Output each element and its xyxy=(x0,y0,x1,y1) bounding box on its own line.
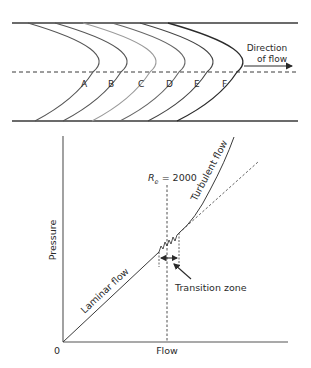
transition-zigzag xyxy=(159,233,179,252)
profile-label-d: D xyxy=(166,79,173,89)
laminar-flow-label: Laminar flow xyxy=(78,265,131,315)
tube-diagram: A B C D E F Direction of flow xyxy=(12,23,298,121)
direction-label-line2: of flow xyxy=(257,54,287,64)
pressure-flow-chart: Pressure Flow 0 Re = 2000 Laminar flow T… xyxy=(47,136,288,356)
x-axis-label: Flow xyxy=(156,345,178,356)
profile-label-a: A xyxy=(81,79,88,89)
diagram-canvas: A B C D E F Direction of flow Pressure F… xyxy=(0,0,311,368)
profile-label-c: C xyxy=(138,79,144,89)
laminar-flow-line xyxy=(63,252,159,342)
profile-label-e: E xyxy=(194,79,200,89)
transition-pointer-arrow-icon xyxy=(174,264,191,279)
direction-label-line1: Direction xyxy=(247,43,288,53)
reynolds-label: Re = 2000 xyxy=(148,172,197,186)
profile-label-f: F xyxy=(222,79,227,89)
origin-label: 0 xyxy=(54,345,60,356)
y-axis-label: Pressure xyxy=(47,220,58,261)
transition-zone-label: Transition zone xyxy=(174,282,247,293)
profile-label-b: B xyxy=(108,79,114,89)
